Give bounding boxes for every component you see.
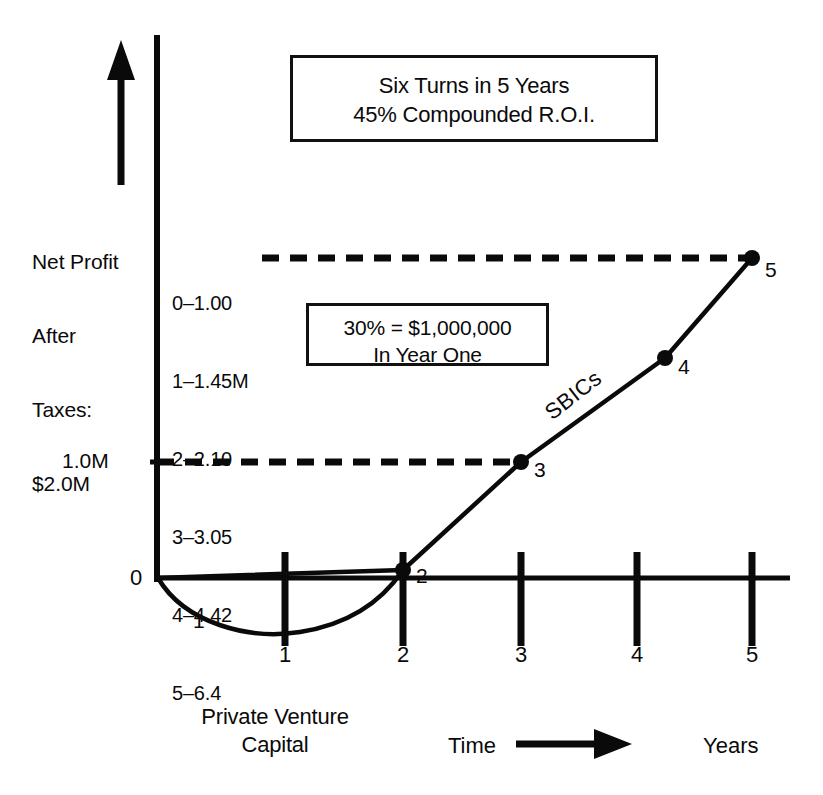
- y-axis-label-1m: 1.0M: [62, 449, 109, 474]
- value-legend-item: 0–1.00: [172, 290, 248, 316]
- headline-line2: 45% Compounded R.O.I.: [293, 100, 655, 129]
- data-point-label-5: 5: [765, 258, 777, 283]
- value-legend-list: 0–1.00 1–1.45M 2–2.10 3–3.05 4–4.42 5–6.…: [172, 238, 248, 758]
- x-tick-label-5: 5: [732, 642, 772, 668]
- headline-annotation-box: Six Turns in 5 Years 45% Compounded R.O.…: [290, 55, 658, 142]
- y-axis-caption-line2: After: [32, 324, 119, 349]
- x-tick-label-3: 3: [501, 642, 541, 668]
- note-annotation-box: 30% = $1,000,000 In Year One: [306, 303, 549, 366]
- data-point-4: [657, 350, 673, 366]
- x-caption-years: Years: [703, 733, 758, 759]
- x-tick-label-2: 2: [383, 642, 423, 668]
- value-legend-item: 2–2.10: [172, 446, 248, 472]
- value-legend-item: 3–3.05: [172, 524, 248, 550]
- time-direction-arrow-icon: [516, 729, 632, 759]
- chart-figure: Net Profit After Taxes: $2.0M 0–1.00 1–1…: [0, 0, 823, 795]
- x-caption-time: Time: [448, 733, 496, 759]
- profit-direction-arrow-icon: [107, 40, 135, 185]
- data-point-2: [395, 562, 411, 578]
- data-point-5: [744, 250, 760, 266]
- note-line2: In Year One: [309, 341, 546, 368]
- y-axis-caption: Net Profit After Taxes: $2.0M: [32, 200, 119, 547]
- x-axis-ticks: [285, 552, 752, 646]
- headline-line1: Six Turns in 5 Years: [293, 58, 655, 100]
- value-legend-item: 1–1.45M: [172, 368, 248, 394]
- y-axis-caption-line4: $2.0M: [32, 472, 119, 497]
- data-point-label-3: 3: [534, 458, 546, 483]
- y-axis-caption-line3: Taxes:: [32, 398, 119, 423]
- x-caption-line: Private Venture: [180, 703, 370, 731]
- x-caption-private-venture-capital: Private VentureCapital: [180, 703, 370, 758]
- y-axis-caption-line1: Net Profit: [32, 250, 119, 275]
- data-point-3: [513, 454, 529, 470]
- x-tick-label-4: 4: [617, 642, 657, 668]
- note-line1: 30% = $1,000,000: [309, 306, 546, 341]
- data-point-label-4: 4: [678, 355, 690, 380]
- series-label-jcurve: 1: [193, 609, 205, 634]
- y-axis-label-zero: 0: [130, 565, 142, 591]
- data-point-label-2: 2: [416, 564, 428, 589]
- value-legend-item: 4–4.42: [172, 602, 248, 628]
- x-tick-label-1: 1: [265, 642, 305, 668]
- x-caption-line: Capital: [180, 731, 370, 759]
